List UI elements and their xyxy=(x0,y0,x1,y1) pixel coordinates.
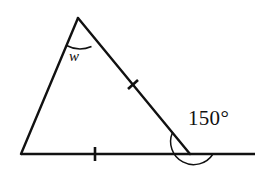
geometry-canvas xyxy=(0,0,263,181)
geometry-figure: w 150° xyxy=(0,0,263,181)
angle-label-150-degrees: 150° xyxy=(188,108,229,129)
angle-label-w: w xyxy=(69,49,79,64)
